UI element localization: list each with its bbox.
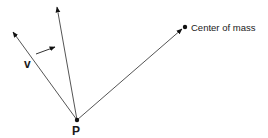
- rotation-indicator-arrow: [36, 47, 55, 54]
- point-p-dot: [75, 118, 79, 122]
- center-of-mass-dot: [183, 25, 187, 29]
- point-p-label: P: [72, 125, 80, 137]
- velocity-label: v: [24, 58, 31, 70]
- rotated-vector-arrow: [57, 7, 77, 120]
- center-of-mass-label: Center of mass: [191, 23, 255, 33]
- center-of-mass-arrow: [77, 29, 182, 120]
- velocity-vector-arrow: [13, 32, 77, 120]
- diagram-canvas: [0, 0, 268, 138]
